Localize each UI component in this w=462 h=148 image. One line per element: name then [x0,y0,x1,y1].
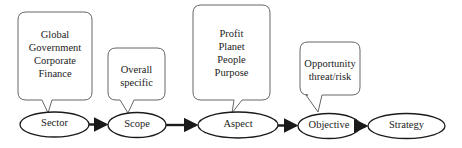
callout-line: specific [108,76,165,89]
callout-line: People [193,53,270,66]
callout-line: Global [18,28,92,41]
callout-line: Corporate [18,54,92,67]
callout-line: Overall [108,63,165,76]
node-strategy-label: Strategy [368,119,445,130]
callout-line: Finance [18,67,92,80]
node-sector-label: Sector [20,117,89,128]
callout-line: Government [18,41,92,54]
callout-aspect: Profit Planet People Purpose [193,27,270,79]
callout-line: Purpose [193,66,270,79]
callout-objective: Opportunity threat/risk [298,57,362,83]
callout-line: Profit [193,27,270,40]
node-aspect-label: Aspect [198,118,278,129]
node-scope-label: Scope [108,118,166,129]
node-objective-label: Objective [298,119,360,130]
callout-line: Opportunity [298,57,362,70]
callout-line: threat/risk [298,70,362,83]
callout-line: Planet [193,40,270,53]
callout-sector: Global Government Corporate Finance [18,28,92,80]
callout-scope: Overall specific [108,63,165,89]
